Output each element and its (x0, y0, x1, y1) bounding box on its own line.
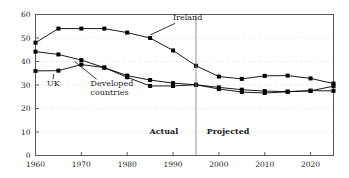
x-tick-label: 2010 (255, 160, 274, 169)
data-point-marker (240, 77, 244, 81)
ireland-label: Ireland (173, 13, 202, 22)
data-point-marker (240, 88, 244, 92)
y-tick-label: 50 (21, 34, 31, 43)
data-point-marker (125, 31, 129, 35)
actual-label: Actual (148, 126, 178, 136)
x-tick-label: 1990 (163, 160, 182, 169)
data-point-marker (286, 74, 290, 78)
data-point-marker (79, 58, 83, 62)
phase-labels: ActualProjected (148, 126, 249, 136)
uk-label: UK (47, 79, 61, 88)
developed-countries-label-line2: countries (91, 88, 129, 97)
annotations: IrelandUKDevelopedcountries (47, 13, 202, 97)
data-point-marker (79, 27, 83, 31)
data-point-marker (263, 74, 267, 78)
projected-label: Projected (207, 126, 250, 136)
line-chart: 0102030405060 19601970198019902000201020… (0, 0, 349, 178)
x-tick-label: 2020 (301, 160, 320, 169)
data-point-marker (332, 84, 336, 88)
y-tick-label: 10 (21, 128, 31, 137)
data-point-marker (34, 41, 38, 45)
data-point-marker (34, 50, 38, 54)
y-tick-label: 40 (21, 57, 31, 66)
data-point-marker (217, 85, 221, 89)
chart-container: 0102030405060 19601970198019902000201020… (0, 0, 349, 178)
y-tick-label: 20 (21, 104, 31, 113)
data-point-marker (148, 36, 152, 40)
data-point-marker (34, 69, 38, 73)
data-point-marker (56, 69, 60, 73)
y-tick-label: 60 (21, 10, 31, 19)
data-point-marker (56, 52, 60, 56)
series-markers (34, 27, 336, 95)
x-tick-label: 1970 (72, 160, 91, 169)
x-tick-label: 1960 (26, 160, 45, 169)
data-point-marker (171, 84, 175, 88)
data-point-marker (309, 89, 313, 93)
data-point-marker (102, 66, 106, 70)
data-point-marker (148, 78, 152, 82)
ireland-label-leader (150, 23, 175, 35)
data-point-marker (171, 48, 175, 52)
data-point-marker (332, 89, 336, 93)
data-point-marker (309, 76, 313, 80)
x-axis-tick-labels: 1960197019801990200020102020 (26, 160, 320, 169)
data-point-marker (263, 89, 267, 93)
data-point-marker (286, 90, 290, 94)
y-axis-tick-labels: 0102030405060 (21, 10, 31, 160)
y-tick-label: 30 (21, 81, 31, 90)
data-point-marker (217, 75, 221, 79)
grid-lines (36, 15, 334, 133)
data-point-marker (102, 27, 106, 31)
series-line-uk (36, 65, 334, 92)
x-tick-label: 1980 (118, 160, 137, 169)
x-tick-label: 2000 (209, 160, 228, 169)
developed-countries-label: Developed (91, 79, 134, 88)
data-point-marker (148, 84, 152, 88)
data-point-marker (56, 27, 60, 31)
